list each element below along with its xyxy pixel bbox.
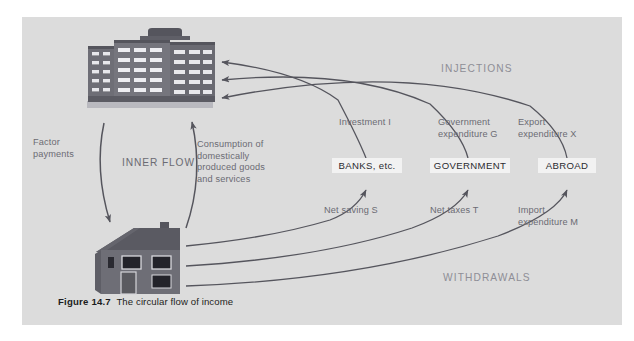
- sector-box-banks[interactable]: BANKS, etc.: [332, 158, 402, 173]
- label-factor-payments: Factor payments: [33, 137, 74, 160]
- inner-flow-arrow-factor-payments: [100, 123, 110, 222]
- label-consumption: Consumption of domestically produced goo…: [197, 139, 265, 185]
- label-injections: INJECTIONS: [441, 63, 513, 74]
- label-net-saving: Net saving S: [324, 205, 378, 217]
- label-export-expenditure: Export expenditure X: [518, 117, 577, 140]
- label-government-expenditure: Government expenditure G: [438, 117, 498, 140]
- label-import-expenditure: Import expenditure M: [518, 205, 578, 228]
- sector-box-government[interactable]: GOVERNMENT: [430, 158, 510, 173]
- figure-caption-text: The circular flow of income: [116, 296, 233, 307]
- figure-circular-flow-of-income: Factor payments INNER FLOW Consumption o…: [0, 0, 634, 341]
- figure-caption: Figure 14.7 The circular flow of income: [58, 296, 233, 307]
- house-icon: [95, 222, 180, 294]
- label-withdrawals: WITHDRAWALS: [443, 272, 531, 283]
- label-inner-flow: INNER FLOW: [122, 157, 195, 168]
- withdrawal-arrow-net-saving: [186, 190, 366, 246]
- withdrawal-arrow-net-taxes: [186, 190, 468, 266]
- label-net-taxes: Net taxes T: [430, 205, 478, 217]
- label-investment: Investment I: [339, 117, 391, 129]
- inner-flow-arrow-consumption: [186, 122, 197, 228]
- sector-box-abroad[interactable]: ABROAD: [538, 158, 596, 173]
- injection-arrow-export-expenditure: [222, 82, 567, 158]
- office-building-icon: [87, 28, 215, 108]
- figure-caption-number: Figure 14.7: [58, 296, 111, 307]
